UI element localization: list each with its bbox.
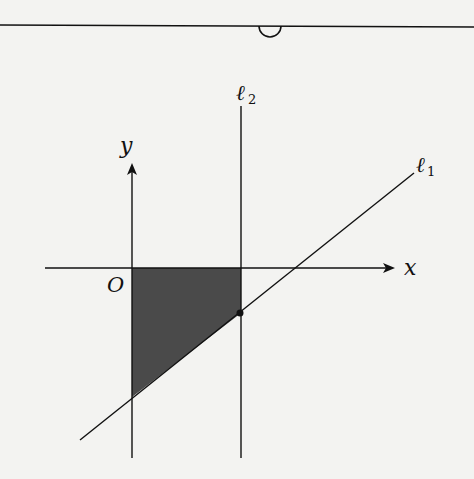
line-l1 — [80, 173, 414, 440]
line-l2-subscript: 2 — [248, 92, 256, 107]
intersection-point — [237, 310, 244, 317]
line-l2-label: ℓ — [236, 81, 245, 105]
coordinate-diagram: y x O ℓ 2 ℓ 1 — [0, 0, 474, 479]
origin-label: O — [107, 273, 124, 297]
semicircle-mark-icon — [259, 26, 281, 37]
line-l1-subscript: 1 — [427, 164, 435, 179]
line-l1-label: ℓ — [416, 153, 425, 177]
x-axis-label: x — [404, 255, 417, 280]
diagram-canvas: y x O ℓ 2 ℓ 1 — [0, 0, 474, 479]
top-rule-line — [0, 25, 474, 27]
y-axis-label: y — [119, 133, 133, 158]
shaded-region — [132, 268, 241, 397]
